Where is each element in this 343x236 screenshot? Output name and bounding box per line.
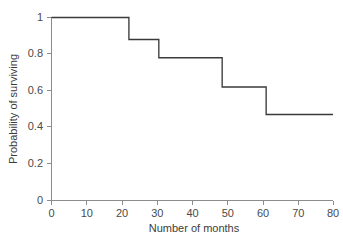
y-tick-label: 0.8 — [28, 47, 43, 59]
survival-chart: 1 0.8 0.6 0.4 0.2 0 0 10 20 30 40 50 60 … — [0, 0, 343, 236]
x-tick-label: 20 — [116, 207, 128, 219]
y-tick-labels: 1 0.8 0.6 0.4 0.2 0 — [28, 11, 43, 206]
x-axis-title: Number of months — [149, 222, 240, 234]
y-tick-label: 0.2 — [28, 157, 43, 169]
x-tick-label: 0 — [48, 207, 54, 219]
y-tick-label: 0.6 — [28, 84, 43, 96]
x-tick-label: 10 — [81, 207, 93, 219]
x-tick-label: 50 — [222, 207, 234, 219]
x-tick-label: 80 — [327, 207, 339, 219]
y-tick-label: 0 — [37, 194, 43, 206]
x-tick-labels: 0 10 20 30 40 50 60 70 80 — [48, 207, 339, 219]
y-tick-label: 0.4 — [28, 120, 43, 132]
y-axis-title: Probability of surviving — [7, 54, 19, 164]
survival-step-curve — [52, 18, 334, 115]
plot-area: 1 0.8 0.6 0.4 0.2 0 0 10 20 30 40 50 60 … — [0, 0, 343, 236]
y-tick-label: 1 — [37, 11, 43, 23]
x-tick-label: 40 — [186, 207, 198, 219]
y-tick-marks — [47, 18, 52, 201]
x-tick-label: 60 — [257, 207, 269, 219]
x-tick-label: 70 — [292, 207, 304, 219]
x-tick-label: 30 — [151, 207, 163, 219]
x-tick-marks — [52, 201, 334, 206]
